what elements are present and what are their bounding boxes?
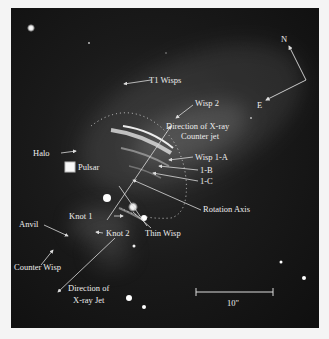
label-knot-1: Knot 1 <box>69 211 92 221</box>
pulsar-marker <box>65 162 75 172</box>
label-thin-wisp: Thin Wisp <box>145 228 181 238</box>
wisp-arcs <box>111 126 173 220</box>
label-wisp-1c: 1-C <box>200 176 213 186</box>
label-counter-jet-direction-1: Direction of X-ray <box>166 121 229 131</box>
compass-north-label: N <box>281 34 287 44</box>
label-counter-jet-direction-2: Counter jet <box>181 131 219 141</box>
leader-lines <box>41 80 201 292</box>
annotation-overlay <box>11 8 319 328</box>
label-knot-2: Knot 2 <box>106 228 129 238</box>
compass-east-label: E <box>257 100 262 110</box>
label-wisp-2: Wisp 2 <box>195 98 219 108</box>
label-pulsar: Pulsar <box>78 162 99 172</box>
nebula-image: T1 Wisps Wisp 2 Direction of X-ray Count… <box>11 8 319 328</box>
label-halo: Halo <box>33 148 50 158</box>
compass <box>266 46 306 100</box>
label-jet-direction-1: Direction of <box>68 283 109 293</box>
label-jet-direction-2: X-ray Jet <box>73 295 104 305</box>
label-rotation-axis: Rotation Axis <box>203 204 250 214</box>
label-counter-wisp: Counter Wisp <box>14 262 61 272</box>
label-t1-wisps: T1 Wisps <box>149 75 181 85</box>
scale-bar-label: 10" <box>227 298 239 308</box>
label-anvil: Anvil <box>19 219 38 229</box>
label-wisp-1b: 1-B <box>200 165 213 175</box>
label-wisp-1a: Wisp 1-A <box>195 152 228 162</box>
scale-bar <box>196 288 273 296</box>
